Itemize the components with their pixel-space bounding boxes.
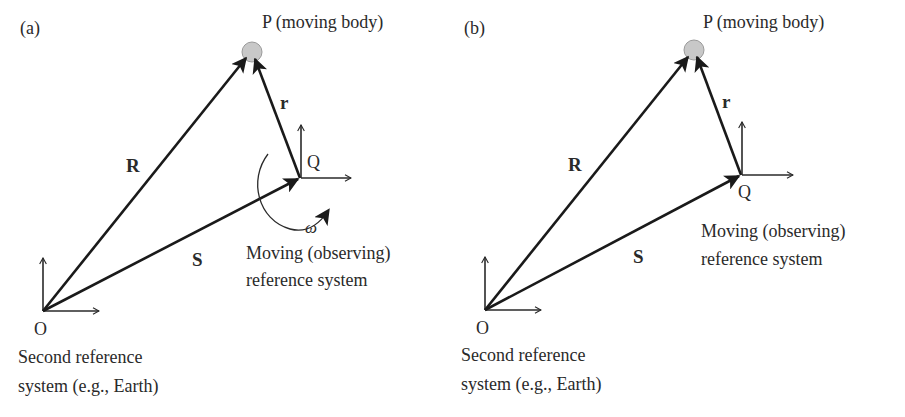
moving-system-label-b-line2: reference system: [701, 249, 822, 269]
panel-label-a: (a): [20, 18, 40, 39]
moving-reference-axes-icon: [742, 122, 793, 175]
vector-R-arrow: [43, 58, 246, 311]
point-Q-label-a: Q: [307, 152, 320, 172]
vector-r-label-a: r: [280, 92, 289, 113]
panel-label-b: (b): [464, 18, 485, 39]
reference-frames-figure: (a) P (moving body) R r Q S ω Moving (ob…: [0, 0, 905, 417]
vector-r-label-b: r: [722, 91, 731, 112]
vector-R-arrow: [485, 57, 688, 310]
second-system-label-b-line2: system (e.g., Earth): [461, 374, 601, 395]
vector-S-arrow: [485, 176, 739, 310]
point-O-label-b: O: [476, 318, 489, 338]
vector-r-arrow: [255, 59, 300, 178]
moving-system-label-a-line2: reference system: [246, 270, 367, 290]
vector-R-label-a: R: [126, 155, 140, 176]
vector-r-arrow: [697, 57, 741, 175]
body-label-a: P (moving body): [262, 12, 383, 33]
point-Q-label-b: Q: [738, 182, 751, 202]
moving-system-label-a-line1: Moving (observing): [246, 243, 390, 264]
second-system-label-b-line1: Second reference: [461, 345, 585, 365]
point-O-label-a: O: [34, 319, 47, 339]
vector-R-label-b: R: [568, 154, 582, 175]
vector-S-label-b: S: [633, 246, 644, 267]
second-system-label-a-line1: Second reference: [18, 347, 142, 367]
panel-b: (b) P (moving body) R r Q S Moving (obse…: [461, 12, 845, 395]
rotation-omega-label: ω: [305, 218, 317, 237]
body-label-b: P (moving body): [703, 12, 824, 33]
panel-a: (a) P (moving body) R r Q S ω Moving (ob…: [18, 12, 390, 397]
vector-S-label-a: S: [192, 249, 203, 270]
second-reference-axes-icon: [43, 258, 99, 311]
second-system-label-a-line2: system (e.g., Earth): [18, 376, 158, 397]
moving-system-label-b-line1: Moving (observing): [701, 221, 845, 242]
